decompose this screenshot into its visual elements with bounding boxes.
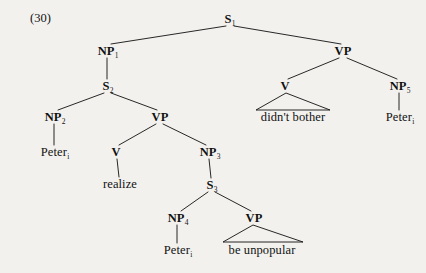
tree-node-subscript: 1 xyxy=(232,18,236,27)
tree-node-vp_top: VP xyxy=(335,45,352,58)
tree-node-subscript: 3 xyxy=(214,184,218,193)
tree-edge-vp_top-v_top xyxy=(288,58,339,79)
syntax-tree-figure: (30) S1NP1VPS2VNP5NP2VPdidn't botherPete… xyxy=(0,0,426,273)
tree-node-t_unpop: be unpopular xyxy=(229,244,296,257)
tree-edge-layer xyxy=(0,0,426,273)
tree-node-label: S xyxy=(225,12,232,26)
tree-node-label: didn't bother xyxy=(261,110,325,124)
tree-node-subscript: i xyxy=(67,151,69,160)
tree-node-label: VP xyxy=(246,211,263,225)
tree-triangle-tri_bother xyxy=(256,93,330,110)
tree-node-label: NP xyxy=(168,211,185,225)
tree-node-label: S xyxy=(103,79,110,93)
tree-node-t_peter4: Peteri xyxy=(164,244,192,257)
tree-node-subscript: 4 xyxy=(185,217,189,226)
tree-node-label: VP xyxy=(152,110,169,124)
tree-edge-s3-vp_low xyxy=(215,192,251,211)
tree-node-s1: S1 xyxy=(225,13,236,26)
tree-edge-s1-vp_top xyxy=(234,26,341,44)
tree-node-v_mid: V xyxy=(111,146,120,159)
example-number-label: (30) xyxy=(30,11,51,26)
tree-node-t_realize: realize xyxy=(103,178,137,191)
tree-node-label: be unpopular xyxy=(229,243,296,257)
tree-node-label: S xyxy=(207,178,214,192)
tree-node-np5: NP5 xyxy=(390,80,411,93)
tree-node-label: NP xyxy=(98,44,115,58)
tree-branches xyxy=(54,26,399,243)
tree-node-subscript: 5 xyxy=(407,85,411,94)
tree-node-vp_low: VP xyxy=(246,212,263,225)
tree-edge-np3-s3 xyxy=(209,159,211,178)
tree-node-v_top: V xyxy=(280,80,289,93)
tree-node-subscript: 1 xyxy=(115,50,119,59)
tree-edge-s3-np4 xyxy=(181,192,208,211)
tree-node-label: NP xyxy=(45,110,62,124)
tree-node-vp_mid: VP xyxy=(152,111,169,124)
tree-node-label: V xyxy=(111,145,120,159)
tree-edge-s2-vp_mid xyxy=(111,93,157,110)
tree-edge-s1-np1 xyxy=(111,26,226,44)
tree-edge-v_mid-t_realize xyxy=(117,159,119,177)
tree-node-s3: S3 xyxy=(207,179,218,192)
tree-node-subscript: i xyxy=(412,116,414,125)
tree-node-np1: NP1 xyxy=(98,45,119,58)
tree-node-s2: S2 xyxy=(103,80,114,93)
tree-node-label: NP xyxy=(200,145,217,159)
tree-node-t_peter5: Peteri xyxy=(386,111,414,124)
tree-node-subscript: 2 xyxy=(110,85,114,94)
tree-node-label: NP xyxy=(390,79,407,93)
tree-node-label: Peter xyxy=(41,145,67,159)
tree-node-np3: NP3 xyxy=(200,146,221,159)
tree-node-np4: NP4 xyxy=(168,212,189,225)
tree-edge-s2-np2 xyxy=(58,93,104,110)
tree-triangle-tri_unpop xyxy=(223,225,303,242)
tree-node-label: Peter xyxy=(386,110,412,124)
tree-node-label: VP xyxy=(335,44,352,58)
tree-node-t_bother: didn't bother xyxy=(261,111,325,124)
tree-node-t_peter2: Peteri xyxy=(41,146,69,159)
tree-edge-vp_mid-v_mid xyxy=(119,124,156,145)
tree-node-label: realize xyxy=(103,177,137,191)
tree-node-subscript: 3 xyxy=(217,151,221,160)
tree-edge-vp_mid-np3 xyxy=(163,124,206,145)
tree-node-subscript: i xyxy=(190,249,192,258)
tree-edge-vp_top-np5 xyxy=(347,58,397,79)
tree-node-subscript: 2 xyxy=(62,116,66,125)
tree-node-np2: NP2 xyxy=(45,111,66,124)
tree-node-label: V xyxy=(280,79,289,93)
tree-node-label: Peter xyxy=(164,243,190,257)
